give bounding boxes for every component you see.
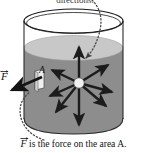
figure-caption: F is the force on the area A. [0, 138, 147, 149]
pressure-diagram [0, 0, 147, 153]
force-vector-label: F [1, 70, 8, 82]
liquid-surface [24, 36, 123, 61]
area-label: A [39, 65, 45, 75]
vector-overbar-icon [0, 69, 9, 73]
cylinder-rim-inner [27, 13, 121, 34]
liquid-body [22, 48, 125, 138]
pressure-point [74, 78, 84, 88]
caption-vector-overbar-icon [20, 136, 29, 140]
caption-text: is the force on the area A. [27, 139, 127, 149]
